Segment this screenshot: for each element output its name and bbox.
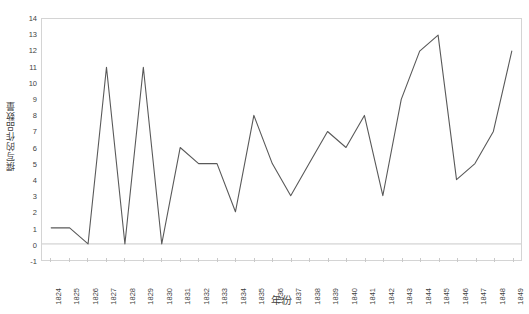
x-axis-tickmark [402,258,403,262]
y-axis-tick: 4 [33,176,37,185]
x-axis-tickmark [143,258,144,262]
x-axis-tickmark [87,258,88,262]
x-axis-tickmark [457,258,458,262]
y-axis-tick: 5 [33,159,37,168]
x-axis-tickmark [494,258,495,262]
x-axis-tickmark [180,258,181,262]
x-axis-tickmark [124,258,125,262]
y-axis-tick: 1 [33,224,37,233]
data-line-svg [42,19,521,260]
x-axis-tickmark [217,258,218,262]
y-axis-tick: 11 [29,62,37,71]
x-axis-tickmark [198,258,199,262]
x-axis-tickmark [272,258,273,262]
x-axis-tickmark [50,258,51,262]
x-axis-tickmark [161,258,162,262]
x-axis-tickmark [420,258,421,262]
y-axis-tick-labels: 14131211109876543210-1 [19,18,39,261]
x-axis-tickmark [383,258,384,262]
y-axis-tick: -1 [30,257,37,266]
x-axis-tickmark [69,258,70,262]
y-axis-tick: 12 [29,46,37,55]
x-axis-tickmark [254,258,255,262]
x-axis-title: 年份 [41,292,522,307]
x-axis-tickmark [235,258,236,262]
y-axis-tick: 0 [33,240,37,249]
x-axis-tickmark [291,258,292,262]
y-axis-tick: 10 [29,78,37,87]
y-axis-tick: 7 [33,127,37,136]
x-axis-tickmark [513,258,514,262]
y-axis-tick: 14 [29,14,37,23]
y-axis-tick: 9 [33,95,37,104]
y-axis-tick: 13 [29,30,37,39]
y-axis-title: 撰写的作品数量 [1,0,19,272]
x-axis-tickmark [328,258,329,262]
x-axis-tickmark [476,258,477,262]
line-chart: 撰写的作品数量 14131211109876543210-1 182418251… [0,0,529,314]
x-axis-tickmark [439,258,440,262]
x-axis-tickmark [346,258,347,262]
data-series-line [51,35,512,244]
x-axis-tickmark [309,258,310,262]
y-axis-tick: 2 [33,208,37,217]
x-axis-tickmark [365,258,366,262]
x-axis-tick-labels: 1824182518261827182818291830183118321833… [41,262,522,292]
y-axis-tick: 6 [33,143,37,152]
plot-area [41,18,522,261]
y-axis-tick: 8 [33,111,37,120]
y-axis-tick: 3 [33,192,37,201]
x-axis-tickmark [106,258,107,262]
